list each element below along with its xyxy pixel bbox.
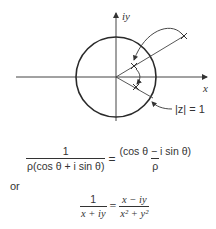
complex-plane-diagram: iy x |z| = 1 xyxy=(0,0,216,130)
inversion-arrow xyxy=(134,28,181,60)
unit-circle-label: |z| = 1 xyxy=(175,103,205,115)
ray-to-conjugate xyxy=(116,77,153,98)
lhs-denominator: x + iy xyxy=(80,206,107,219)
lhs-numerator: 1 xyxy=(62,145,70,158)
rhs-fraction: x − iy x² + y² xyxy=(119,194,149,219)
equals-sign: = xyxy=(110,199,117,214)
lhs-numerator: 1 xyxy=(89,193,97,206)
lhs-denominator: ρ(cos θ + i sin θ) xyxy=(26,158,105,172)
rhs-denominator: x² + y² xyxy=(119,206,149,219)
rhs-numerator: (cos θ − i sin θ) xyxy=(118,145,192,158)
equals-sign: = xyxy=(108,152,115,166)
inverse-point-marker xyxy=(131,63,137,69)
circle-label-pointer xyxy=(152,102,172,109)
ray-to-outer-point xyxy=(116,36,184,77)
or-connector: or xyxy=(10,180,20,192)
y-axis-label: iy xyxy=(122,10,130,22)
outer-point-marker xyxy=(181,33,187,39)
rhs-fraction: (cos θ − i sin θ) ρ xyxy=(118,145,192,172)
lhs-fraction: 1 ρ(cos θ + i sin θ) xyxy=(26,145,105,172)
equation-cartesian: 1 x + iy = x − iy x² + y² xyxy=(80,193,149,219)
equation-polar: 1 ρ(cos θ + i sin θ) = (cos θ − i sin θ)… xyxy=(26,145,192,172)
rhs-numerator: x − iy xyxy=(121,194,148,206)
lhs-fraction: 1 x + iy xyxy=(80,193,107,219)
x-axis-label: x xyxy=(202,82,208,94)
rhs-denominator: ρ xyxy=(151,158,159,172)
